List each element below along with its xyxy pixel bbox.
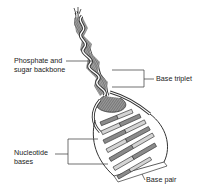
label-backbone-line2: sugar backbone xyxy=(14,65,65,74)
lower-ladder xyxy=(93,109,167,179)
label-backbone-line1: Phosphate and xyxy=(14,56,62,65)
dna-helix-diagram: Phosphate and sugar backbone Base triple… xyxy=(0,0,206,191)
label-base-pair: Base pair xyxy=(146,175,176,184)
upper-helix xyxy=(74,7,108,96)
label-base-triplet: Base triplet xyxy=(156,74,192,83)
label-nucleotide-line2: bases xyxy=(14,157,33,166)
label-nucleotide-line1: Nucleotide xyxy=(14,148,48,157)
